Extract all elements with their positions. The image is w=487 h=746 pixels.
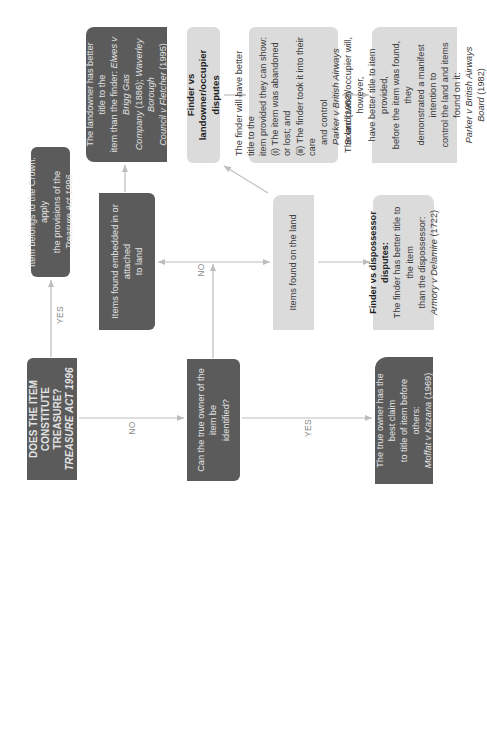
case-citation: Armory v Delamire bbox=[429, 239, 439, 315]
case-citation: Company bbox=[134, 111, 144, 150]
node-text: (1995) bbox=[158, 43, 168, 72]
node-text: The true owner has the best claim bbox=[374, 364, 398, 477]
node-text: Item belongs to the Crown: apply bbox=[26, 154, 50, 270]
node-crown: Item belongs to the Crown: apply the pro… bbox=[31, 147, 70, 277]
node-text: The landowner/occupier will, however, bbox=[342, 34, 366, 156]
node-text-row: Armory v Delamire (1722) bbox=[428, 210, 440, 315]
node-text: identified? bbox=[220, 399, 232, 441]
node-finder-vs-dispossessor: Finder vs dispossessor disputes: The fin… bbox=[373, 195, 434, 330]
node-list-item: (i) The item was abandoned or lost; and bbox=[269, 34, 293, 156]
node-heading: Finder vs dispossessor disputes: bbox=[367, 202, 391, 323]
edge-label-treasure-no: NO bbox=[127, 421, 137, 434]
edge-label-treasure-yes: YES bbox=[55, 306, 65, 324]
node-true-owner: The true owner has the best claim to tit… bbox=[375, 357, 433, 484]
node-text: the provisions of the bbox=[52, 171, 62, 253]
node-text: The finder will have better title to the bbox=[233, 34, 257, 156]
node-text: The finder has better title to the item bbox=[391, 202, 415, 323]
node-text: control the land and items found on it: bbox=[439, 34, 463, 156]
node-text-row: the provisions of the Treasure Act 1996 bbox=[51, 154, 75, 270]
node-finder-title: The finder will have better title to the… bbox=[249, 27, 338, 163]
node-text-row: item than the finder: Elwes v Brigg Gas bbox=[108, 34, 132, 155]
node-list-item: and control bbox=[318, 100, 330, 156]
node-text: before the item was found, they bbox=[390, 34, 414, 156]
node-text: The landowner has better title to the bbox=[84, 34, 108, 155]
node-text: demonstrated a manifest intention to bbox=[415, 34, 439, 156]
node-heading: Finder vs landowner/occupier disputes bbox=[185, 34, 223, 156]
node-text-row: Parker v British Airways Board (1982) bbox=[463, 34, 487, 156]
node-text: (1886); bbox=[134, 77, 144, 111]
node-list-item: (ii) The finder took it into their care bbox=[294, 34, 318, 156]
node-finder-vs-landowner-heading: Finder vs landowner/occupier disputes bbox=[187, 27, 220, 163]
node-text: to land bbox=[133, 248, 145, 276]
node-text: Items found on the land bbox=[287, 214, 299, 310]
node-text-row: Company (1886); Waverley Borough bbox=[133, 34, 157, 155]
node-landowner-title: The landowner has better title to the it… bbox=[86, 27, 167, 162]
node-text: (1969) bbox=[423, 373, 433, 402]
node-text: item than the finder: bbox=[109, 68, 119, 152]
node-items-embedded: Items found embedded in or attached to l… bbox=[99, 193, 155, 330]
edge-label-owner-no: NO bbox=[196, 263, 206, 276]
node-text: DOES THE ITEM CONSTITUTE bbox=[28, 365, 52, 473]
case-citation: Council v Fletcher bbox=[158, 72, 168, 146]
node-text: Can the true owner of the item be bbox=[195, 366, 219, 474]
node-text: item provided they can show: bbox=[257, 37, 269, 156]
node-owner-question: Can the true owner of the item be identi… bbox=[187, 359, 240, 481]
node-items-on-land: Items found on the land bbox=[273, 195, 314, 330]
node-text: TREASURE ACT 1996 bbox=[64, 368, 76, 471]
node-text: Items found embedded in or attached bbox=[109, 200, 133, 323]
node-text-row: Moffat v Kazana (1969) bbox=[422, 373, 434, 469]
node-text: TREASURE? bbox=[52, 388, 64, 449]
edge-label-owner-yes: YES bbox=[303, 419, 313, 437]
node-treasure-question: DOES THE ITEM CONSTITUTE TREASURE? TREAS… bbox=[27, 358, 77, 480]
node-text: than the dispossessor: bbox=[416, 217, 428, 309]
node-occupier-title: The landowner/occupier will, however, ha… bbox=[372, 27, 457, 163]
node-text: to title of item before others: bbox=[398, 364, 422, 477]
node-text-italic: Treasure Act 1996 bbox=[64, 175, 74, 250]
node-text: (1982) bbox=[476, 68, 486, 97]
node-text: have better title to item provided, bbox=[366, 34, 390, 156]
node-text-row: Council v Fletcher (1995) bbox=[157, 43, 169, 146]
node-text: (1722) bbox=[429, 210, 439, 239]
case-citation: Moffat v Kazana bbox=[423, 402, 433, 468]
arrow-on-land-to-finder-vs-landowner bbox=[224, 166, 268, 193]
